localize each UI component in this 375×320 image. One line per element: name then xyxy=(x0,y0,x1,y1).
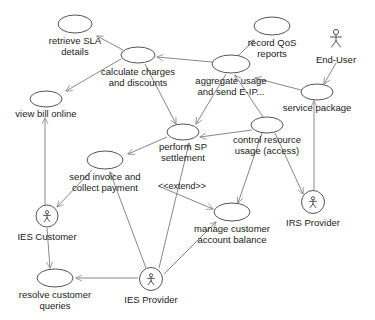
use-case-ellipse[interactable] xyxy=(121,47,155,63)
use-case-label-line1: aggregate usage xyxy=(195,75,266,86)
actor-leg-left-icon xyxy=(332,41,337,47)
use-case-label: manage customeraccount balance xyxy=(194,223,270,245)
actor-irs_provider[interactable]: IRS Provider xyxy=(286,191,340,228)
edge-labels-layer: <<extend>> xyxy=(158,181,206,191)
use-case-label: resolve customerqueries xyxy=(19,289,91,311)
use-case-label-line1: send invoice and xyxy=(69,171,140,182)
actor-leg-right-icon xyxy=(336,41,341,47)
use-case-ellipse[interactable] xyxy=(301,84,333,100)
use-case-label: retrieve SLAdetails xyxy=(49,35,102,57)
use-case-retrieve_sla[interactable]: retrieve SLAdetails xyxy=(49,15,102,57)
use-case-label: calculate chargesand discounts xyxy=(101,66,175,88)
use-case-record_qos[interactable]: record QoSreports xyxy=(248,17,297,59)
use-case-send_invoice[interactable]: send invoice andcollect payment xyxy=(69,151,140,193)
use-case-label: send invoice andcollect payment xyxy=(69,171,140,193)
use-case-label-line1: resolve customer xyxy=(19,289,91,300)
use-case-label-line2: settlement xyxy=(161,152,205,163)
use-case-label-line2: and discounts xyxy=(109,77,168,88)
use-case-manage_customer[interactable]: manage customeraccount balance xyxy=(194,203,270,245)
actor-label: IES Provider xyxy=(124,294,177,305)
use-case-ellipse[interactable] xyxy=(212,55,250,73)
use-case-diagram: retrieve SLAdetailsrecord QoSreportscalc… xyxy=(0,0,375,320)
actor-ies_customer[interactable]: IES Customer xyxy=(17,205,76,242)
actor-end_user[interactable]: End-User xyxy=(316,29,356,64)
use-case-ellipse[interactable] xyxy=(214,203,250,221)
actor-head-icon xyxy=(333,29,338,34)
use-case-ellipse[interactable] xyxy=(37,269,73,287)
use-case-label: control resourceusage (access) xyxy=(233,134,301,156)
use-case-label-line1: calculate charges xyxy=(101,66,175,77)
use-case-label-line1: service package xyxy=(283,102,352,113)
use-case-ellipse[interactable] xyxy=(30,91,62,107)
use-case-resolve_queries[interactable]: resolve customerqueries xyxy=(19,269,91,311)
use-case-calculate_charges[interactable]: calculate chargesand discounts xyxy=(101,47,175,88)
use-case-label: view bill online xyxy=(15,108,76,119)
use-case-label-line1: record QoS xyxy=(248,37,297,48)
use-case-control_resource[interactable]: control resourceusage (access) xyxy=(233,117,301,156)
actor-label: IES Customer xyxy=(17,231,76,242)
use-case-label-line2: account balance xyxy=(197,234,266,245)
edge-enduser-to-servicepkg xyxy=(324,63,336,84)
use-case-label-line2: and send E-IP... xyxy=(198,86,265,97)
use-case-label-line1: manage customer xyxy=(194,223,270,234)
use-case-ellipse[interactable] xyxy=(87,151,123,169)
use-case-label-line1: retrieve SLA xyxy=(49,35,102,46)
use-case-label: aggregate usageand send E-IP... xyxy=(195,75,266,97)
use-case-label-line2: queries xyxy=(39,300,70,311)
diagram-canvas: retrieve SLAdetailsrecord QoSreportscalc… xyxy=(0,0,375,320)
use-case-ellipse[interactable] xyxy=(254,17,290,35)
use-case-label-line2: details xyxy=(61,46,89,57)
use-case-ellipse[interactable] xyxy=(58,15,92,33)
use-case-label-line2: collect payment xyxy=(72,182,138,193)
use-case-label-line1: perform SP xyxy=(159,141,207,152)
actor-ies_provider[interactable]: IES Provider xyxy=(124,268,177,305)
actor-label: IRS Provider xyxy=(286,217,340,228)
edge-label-extend_stereotype: <<extend>> xyxy=(158,181,206,191)
use-case-perform_sp[interactable]: perform SPsettlement xyxy=(159,124,207,163)
use-case-view_bill_online[interactable]: view bill online xyxy=(15,91,76,119)
use-case-label: record QoSreports xyxy=(248,37,297,59)
use-case-label: perform SPsettlement xyxy=(159,141,207,163)
use-case-label-line1: view bill online xyxy=(15,108,76,119)
use-case-ellipse[interactable] xyxy=(167,124,199,140)
use-case-label-line2: reports xyxy=(257,48,287,59)
edge-aggregate-to-calculate xyxy=(157,57,212,62)
use-case-ellipse[interactable] xyxy=(251,117,283,133)
use-case-label-line1: control resource xyxy=(233,134,301,145)
use-case-label-line2: usage (access) xyxy=(235,145,299,156)
use-case-label: service package xyxy=(283,102,352,113)
actor-label: End-User xyxy=(316,54,356,65)
